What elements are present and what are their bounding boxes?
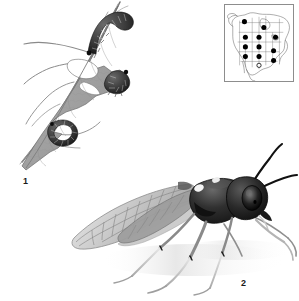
map-marker-filled xyxy=(271,48,276,53)
illustration-plate: 1 2 xyxy=(0,0,299,301)
figure-2-label: 2 xyxy=(241,279,246,288)
map-marker-open xyxy=(257,63,261,67)
distribution-map xyxy=(224,4,294,82)
map-marker-filled xyxy=(271,58,276,63)
map-marker-filled xyxy=(261,25,266,30)
sawfly-larva-upper xyxy=(87,12,134,58)
map-marker-filled xyxy=(256,54,261,59)
figure-2-adult-sawfly xyxy=(66,138,299,301)
map-marker-filled xyxy=(243,44,248,49)
map-marker-filled xyxy=(273,35,278,40)
figure-1-label: 1 xyxy=(23,177,28,186)
map-marker-filled xyxy=(243,35,248,40)
map-marker-filled xyxy=(243,54,248,59)
compound-eye xyxy=(242,186,262,211)
map-marker-filled xyxy=(242,19,247,24)
map-marker-filled xyxy=(256,44,261,49)
map-marker-filled xyxy=(256,35,261,40)
